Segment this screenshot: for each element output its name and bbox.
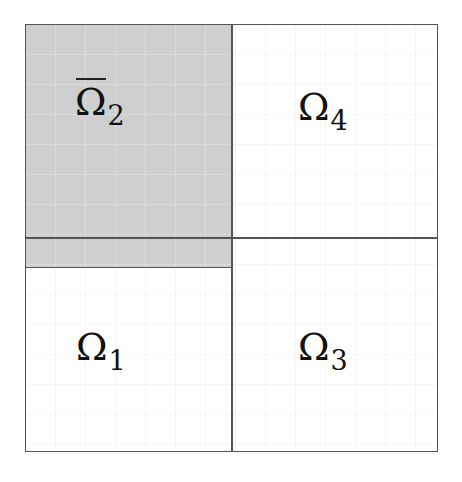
subscript: 4	[331, 105, 348, 136]
symbol: Ω	[76, 328, 108, 366]
domain-diagram: Ω2 Ω4 Ω1 Ω3	[0, 0, 462, 482]
symbol: Ω	[298, 328, 330, 366]
horizontal-divider	[25, 237, 438, 239]
label-omega4: Ω4	[298, 88, 348, 126]
label-omega3: Ω3	[298, 328, 348, 366]
symbol: Ω	[75, 80, 107, 124]
subscript: 1	[109, 345, 126, 376]
subscript: 3	[331, 345, 348, 376]
label-omega1: Ω1	[76, 328, 126, 366]
label-omega2-bar: Ω2	[75, 83, 125, 121]
overline	[76, 78, 106, 80]
symbol: Ω	[298, 88, 330, 126]
subscript: 2	[108, 100, 125, 131]
